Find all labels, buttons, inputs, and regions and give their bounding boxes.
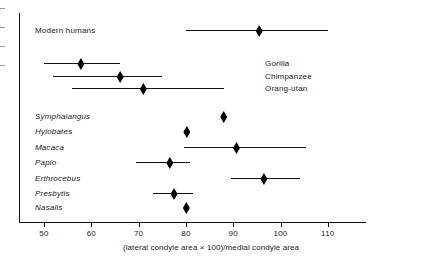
data-point-marker — [183, 202, 190, 214]
chart-row: Orang-utan — [0, 82, 422, 96]
chart-row: Papio — [0, 156, 422, 170]
data-point-marker — [256, 25, 263, 37]
series-label-macaca: Macaca — [35, 141, 64, 155]
chart-row: Hylobates — [0, 125, 422, 139]
series-label-hylobates: Hylobates — [35, 125, 72, 139]
page-edge-mark — [0, 46, 5, 47]
x-axis-tick-label: 80 — [174, 229, 198, 239]
x-axis-tick — [44, 222, 45, 227]
x-axis-tick-label: 100 — [269, 229, 293, 239]
chart-row: Erthrocebus — [0, 172, 422, 186]
data-point-marker — [233, 142, 240, 154]
series-label-erthrocebus: Erthrocebus — [35, 172, 80, 186]
chart-row: Nasalis — [0, 201, 422, 215]
range-line — [72, 88, 223, 89]
x-axis-tick — [139, 222, 140, 227]
series-label-nasalis: Nasalis — [35, 201, 63, 215]
range-line — [184, 147, 306, 148]
x-axis-caption: (lateral condyle area × 100)/medial cond… — [0, 243, 422, 253]
range-line — [136, 162, 190, 163]
x-axis-tick — [91, 222, 92, 227]
chart-canvas: 5060708090100110 Modern humansGorillaChi… — [0, 0, 422, 266]
x-axis-tick-label: 110 — [316, 229, 340, 239]
x-axis-line — [19, 222, 366, 223]
series-label-papio: Papio — [35, 156, 56, 170]
data-point-marker — [166, 157, 173, 169]
chart-row: Gorilla — [0, 57, 422, 71]
x-axis-tick-label: 50 — [32, 229, 56, 239]
chart-row: Presbytis — [0, 187, 422, 201]
series-label-symphalangus: Symphalangus — [35, 110, 90, 124]
series-label-modern-humans: Modern humans — [35, 24, 95, 38]
data-point-marker — [220, 111, 227, 123]
page-edge-mark — [0, 8, 5, 9]
data-point-marker — [183, 126, 190, 138]
chart-row: Modern humans — [0, 24, 422, 38]
data-point-marker — [77, 58, 84, 70]
x-axis-tick-label: 70 — [127, 229, 151, 239]
x-axis-tick — [281, 222, 282, 227]
range-line — [53, 76, 162, 77]
x-axis-tick — [328, 222, 329, 227]
series-label-orang-utan: Orang-utan — [265, 82, 307, 96]
x-axis-tick — [186, 222, 187, 227]
chart-row: Symphalangus — [0, 110, 422, 124]
x-axis-tick-label: 60 — [79, 229, 103, 239]
data-point-marker — [140, 83, 147, 95]
series-label-gorilla: Gorilla — [265, 57, 290, 71]
chart-row: Macaca — [0, 141, 422, 155]
x-axis-tick — [233, 222, 234, 227]
data-point-marker — [260, 173, 267, 185]
x-axis-tick-label: 90 — [221, 229, 245, 239]
series-label-presbytis: Presbytis — [35, 187, 70, 201]
data-point-marker — [171, 188, 178, 200]
